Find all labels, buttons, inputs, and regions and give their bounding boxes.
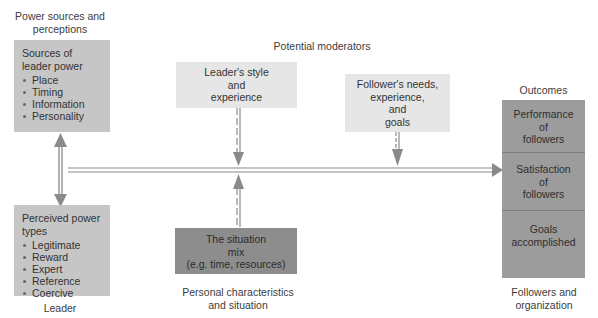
list-item: Legitimate xyxy=(22,239,104,251)
leaders-style-box: Leader's style and experience xyxy=(176,62,297,108)
perceived-power-types-box: Perceived power types Legitimate Reward … xyxy=(14,205,110,296)
list-item: Timing xyxy=(22,86,104,98)
heading-followers-org: Followers and organization xyxy=(496,286,592,311)
follower-needs-box: Follower's needs, experience, and goals xyxy=(345,74,450,132)
box-line: Satisfaction xyxy=(502,163,585,176)
box-line: of xyxy=(502,121,585,134)
box-line: of xyxy=(502,176,585,189)
arrowhead-down-style-icon xyxy=(233,152,244,166)
box-line: experience, xyxy=(345,91,450,104)
box-line: Performance xyxy=(502,108,585,121)
heading-personal-situation: Personal characteristics and situation xyxy=(176,286,300,311)
box-line: The situation xyxy=(175,233,297,246)
box-line: Follower's needs, xyxy=(345,78,450,91)
outcome-performance-box: Performance of followers xyxy=(502,100,585,153)
box-line: and xyxy=(345,103,450,116)
list-item: Coercive xyxy=(22,287,104,299)
heading-outcomes: Outcomes xyxy=(502,84,585,97)
box-line: experience xyxy=(176,91,297,104)
perceived-box-title: Perceived power types xyxy=(22,212,104,237)
list-item: Reference xyxy=(22,275,104,287)
outcome-goals-box: Goals accomplished xyxy=(502,211,585,278)
arrowhead-up-situation-icon xyxy=(233,174,244,189)
box-line: (e.g. time, resources) xyxy=(175,258,297,271)
situation-mix-box: The situation mix (e.g. time, resources) xyxy=(175,228,297,274)
arrowhead-up-icon xyxy=(54,133,67,147)
heading-potential-moderators: Potential moderators xyxy=(262,40,382,53)
outcome-satisfaction-box: Satisfaction of followers xyxy=(502,153,585,211)
arrowhead-down-follower-icon xyxy=(392,149,403,166)
heading-power-sources: Power sources and perceptions xyxy=(8,10,112,35)
box-line: goals xyxy=(345,116,450,129)
list-item: Expert xyxy=(22,263,104,275)
box-line: Goals xyxy=(502,223,585,236)
list-item: Reward xyxy=(22,251,104,263)
box-line: accomplished xyxy=(502,236,585,249)
heading-leader: Leader xyxy=(15,302,105,315)
list-item: Personality xyxy=(22,110,104,122)
box-line: followers xyxy=(502,188,585,201)
outcomes-stack: Performance of followers Satisfaction of… xyxy=(502,100,585,278)
box-line: and xyxy=(176,79,297,92)
sources-of-leader-power-box: Sources of leader power Place Timing Inf… xyxy=(14,40,110,132)
list-item: Place xyxy=(22,74,104,86)
box-line: mix xyxy=(175,246,297,259)
box-line: Leader's style xyxy=(176,66,297,79)
list-item: Information xyxy=(22,98,104,110)
sources-box-title: Sources of leader power xyxy=(22,47,104,72)
box-line: followers xyxy=(502,133,585,146)
